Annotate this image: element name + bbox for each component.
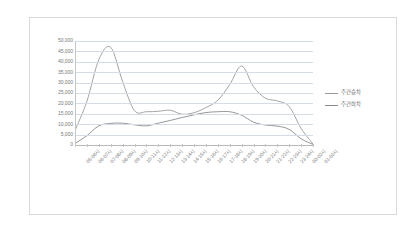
gridline: [75, 103, 313, 104]
x-axis-tick-mark: [182, 144, 183, 147]
legend-label: 주간하차: [341, 102, 361, 107]
plot-area: [75, 41, 313, 145]
y-axis-tick-label: 40,000: [31, 59, 73, 64]
x-axis-tick-mark: [206, 144, 207, 147]
chart-container: 50,00045,00040,00035,00030,00025,00020,0…: [29, 17, 397, 215]
y-axis-tick-label: 25,000: [31, 90, 73, 95]
chart-legend: 주간승차 주간하차: [325, 87, 393, 111]
y-axis-tick-label: 50,000: [31, 38, 73, 43]
y-axis-tick-label: 5,000: [31, 132, 73, 137]
y-axis-line: [75, 41, 76, 146]
x-axis-tick-mark: [123, 144, 124, 147]
y-axis-tick-label: 35,000: [31, 70, 73, 75]
x-axis-tick-mark: [313, 144, 314, 147]
gridline: [75, 93, 313, 94]
y-axis-tick-label: 10,000: [31, 122, 73, 127]
gridline: [75, 124, 313, 125]
x-axis-tick-mark: [254, 144, 255, 147]
x-axis-tick-mark: [111, 144, 112, 147]
y-axis-tick-label: 15,000: [31, 111, 73, 116]
gridline: [75, 83, 313, 84]
gridline: [75, 72, 313, 73]
x-axis-tick-mark: [170, 144, 171, 147]
legend-swatch-icon: [325, 105, 338, 106]
gridline: [75, 135, 313, 136]
x-axis-tick-mark: [277, 144, 278, 147]
series-line-2: [75, 111, 313, 144]
x-axis-tick-mark: [301, 144, 302, 147]
x-axis-tick-mark: [194, 144, 195, 147]
x-axis-tick-mark: [87, 144, 88, 147]
legend-swatch-icon: [325, 93, 338, 94]
y-axis-tick-label: 20,000: [31, 101, 73, 106]
legend-item-series-2[interactable]: 주간하차: [325, 99, 393, 111]
x-axis-tick-mark: [135, 144, 136, 147]
y-axis-tick-label: 45,000: [31, 49, 73, 54]
plot-wrapper: 50,00045,00040,00035,00030,00025,00020,0…: [30, 18, 398, 216]
legend-item-series-1[interactable]: 주간승차: [325, 87, 393, 99]
x-axis-tick-mark: [265, 144, 266, 147]
x-axis-tick-mark: [242, 144, 243, 147]
x-axis-labels: 05-06시06-07시07-08시08-09시09-10시10-11시11-1…: [75, 147, 313, 207]
x-axis-tick-mark: [146, 144, 147, 147]
gridline: [75, 51, 313, 52]
x-axis-tick-mark: [99, 144, 100, 147]
x-axis-tick-mark: [230, 144, 231, 147]
gridline: [75, 62, 313, 63]
y-axis-tick-label: 0: [31, 142, 73, 147]
x-axis-tick-mark: [289, 144, 290, 147]
x-axis-tick-mark: [218, 144, 219, 147]
x-axis-tick-mark: [75, 144, 76, 147]
x-axis-tick-mark: [158, 144, 159, 147]
y-axis-labels: 50,00045,00040,00035,00030,00025,00020,0…: [30, 41, 73, 146]
gridline: [75, 114, 313, 115]
y-axis-tick-label: 30,000: [31, 80, 73, 85]
gridline: [75, 41, 313, 42]
legend-label: 주간승차: [341, 90, 361, 95]
